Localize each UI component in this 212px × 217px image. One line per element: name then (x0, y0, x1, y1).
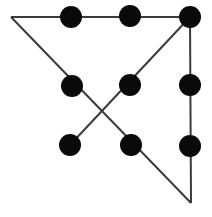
dot-bottom-left (59, 134, 81, 156)
dot-top-right (119, 5, 141, 27)
figure-background (0, 0, 212, 217)
dot-top-middle (60, 6, 82, 28)
segment-right-vertical (190, 17, 191, 203)
dot-middle-left (61, 75, 83, 97)
dot-middle-right (179, 74, 201, 96)
dot-middle-center (119, 74, 141, 96)
dot-bottom-right (179, 135, 201, 157)
dot-corner-top-right (179, 6, 201, 28)
dot-bottom-middle (120, 134, 142, 156)
figure-canvas (0, 0, 212, 217)
nine-dots-figure (0, 0, 212, 217)
